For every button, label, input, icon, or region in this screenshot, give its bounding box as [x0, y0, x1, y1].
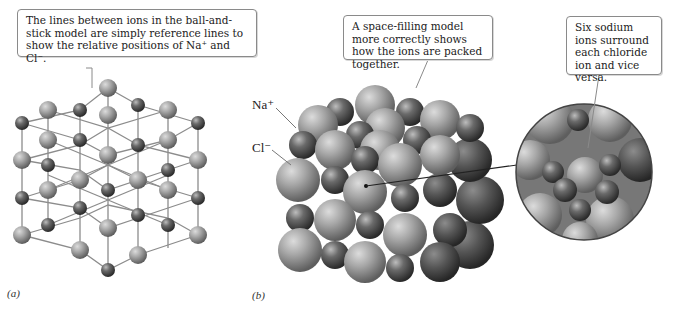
figure-label-a: (a)	[7, 287, 20, 299]
na-ion-label: Na⁺	[252, 97, 274, 113]
cl-ion-label: Cl⁻	[252, 140, 271, 156]
callout-a-pointer	[86, 68, 92, 88]
figure-label-b: (b)	[252, 289, 265, 301]
callout-ball-and-stick: The lines between ions in the ball-and-s…	[17, 9, 257, 57]
callout-b-pointer	[416, 60, 428, 88]
na-label-leader	[276, 108, 296, 128]
cl-label-leader	[272, 150, 291, 165]
callout-space-filling: A space-filling model more correctly sho…	[343, 15, 493, 60]
zoom-inset	[510, 96, 662, 258]
space-filling-model	[276, 85, 504, 283]
callout-six-sodium: Six sodium ions surround each chloride i…	[566, 16, 662, 75]
ball-and-stick-ions	[13, 79, 207, 277]
